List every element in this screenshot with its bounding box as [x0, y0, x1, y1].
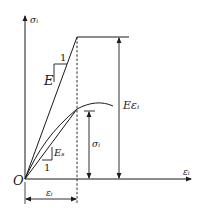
- elastic-modulus-label: E: [43, 73, 54, 88]
- x-axis-label: εᵢ: [183, 167, 190, 177]
- elastic-slope-triangle: [54, 64, 67, 82]
- actual-stress-label: σᵢ: [92, 139, 100, 149]
- y-axis-label: σᵢ: [30, 15, 38, 25]
- elastic-unit-label: 1: [60, 52, 66, 63]
- elastic-stress-label: Eεᵢ: [122, 99, 139, 112]
- strain-dimension-label: εᵢ: [46, 188, 53, 198]
- stress-strain-diagram: E 1 Eₛ 1 Eεᵢ σᵢ εᵢ σᵢ εᵢ O: [0, 0, 208, 219]
- origin-label: O: [13, 173, 24, 188]
- secant-modulus-label: Eₛ: [53, 147, 65, 158]
- secant-line: [25, 109, 77, 179]
- secant-unit-label: 1: [44, 162, 50, 173]
